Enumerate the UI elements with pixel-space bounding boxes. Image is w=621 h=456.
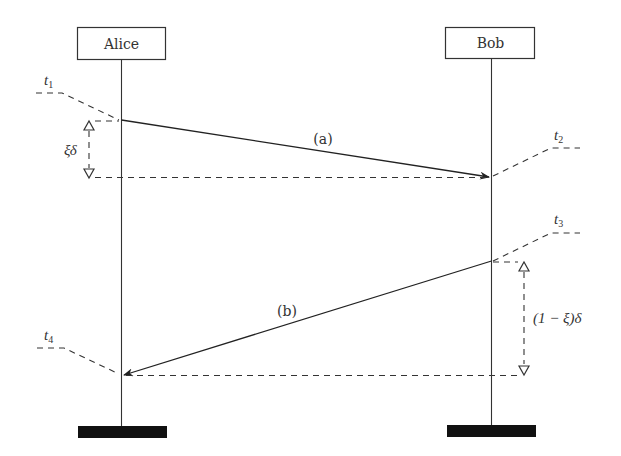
time-marker-t1: t1 (36, 72, 119, 120)
alice-label: Alice (103, 36, 139, 52)
bob-end-bar (447, 425, 536, 437)
t2-leader (493, 148, 580, 176)
t1-leader (36, 93, 119, 120)
bob-label: Bob (477, 35, 505, 51)
message-a-label: (a) (313, 131, 332, 147)
xi-delta-up-triangle (84, 121, 94, 130)
xi-delta-label: ξδ (64, 142, 78, 158)
alice-end-bar (78, 426, 167, 438)
message-a-arrow (122, 120, 490, 177)
one-minus-xi-delta-down-triangle (519, 366, 529, 375)
t4-label: t4 (44, 327, 53, 345)
time-marker-t4: t4 (37, 327, 119, 374)
t3-leader (493, 233, 580, 261)
one-minus-xi-delta-up-triangle (519, 262, 529, 271)
message-b-label: (b) (277, 303, 297, 319)
time-marker-t2: t2 (493, 127, 580, 176)
sequence-diagram: Alice Bob t1 (a) ξδ t2 t3 ( (0, 0, 621, 456)
message-a: (a) (122, 120, 490, 177)
one-minus-xi-delta-label: (1 − ξ)δ (533, 310, 583, 327)
t3-label: t3 (554, 211, 563, 229)
participant-alice: Alice (78, 28, 168, 439)
t2-label: t2 (554, 127, 563, 145)
t1-label: t1 (44, 72, 53, 90)
xi-delta-down-triangle (84, 169, 94, 178)
interval-xi-delta: ξδ (64, 121, 488, 178)
interval-one-minus-xi-delta: (1 − ξ)δ (126, 262, 583, 376)
message-b: (b) (124, 261, 492, 375)
time-marker-t3: t3 (493, 211, 580, 261)
t4-leader (37, 348, 119, 374)
message-b-arrow (124, 261, 492, 375)
